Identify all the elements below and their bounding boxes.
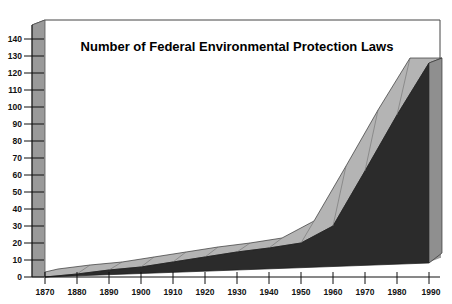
x-tick-1930: 1930 [228, 287, 247, 297]
area-right-cap [429, 58, 442, 263]
y-tick-40: 40 [13, 204, 23, 214]
x-tick-1890: 1890 [100, 287, 119, 297]
x-tick-1980: 1980 [388, 287, 407, 297]
y-tick-50: 50 [13, 187, 23, 197]
x-tick-1910: 1910 [164, 287, 183, 297]
y-tick-10: 10 [13, 255, 23, 265]
x-tick-1970: 1970 [356, 287, 375, 297]
y-tick-140: 140 [8, 34, 22, 44]
y-tick-70: 70 [13, 153, 23, 163]
x-tick-1870: 1870 [36, 287, 55, 297]
y-tick-80: 80 [13, 136, 23, 146]
x-tick-1960: 1960 [324, 287, 343, 297]
x-tick-1900: 1900 [132, 287, 151, 297]
x-tick-1880: 1880 [68, 287, 87, 297]
y-tick-110: 110 [8, 85, 22, 95]
y-tick-120: 120 [8, 68, 22, 78]
y-tick-130: 130 [8, 51, 22, 61]
chart-container: 0 10 20 30 40 50 60 70 80 90 100 110 [0, 0, 452, 304]
y-tick-0: 0 [17, 272, 22, 282]
chart-title: Number of Federal Environmental Protecti… [81, 39, 394, 54]
x-tick-1950: 1950 [292, 287, 311, 297]
y-tick-30: 30 [13, 221, 23, 231]
x-tick-1940: 1940 [260, 287, 279, 297]
y-tick-100: 100 [8, 102, 22, 112]
area-chart: 0 10 20 30 40 50 60 70 80 90 100 110 [0, 0, 452, 304]
y-tick-20: 20 [13, 238, 23, 248]
y-tick-60: 60 [13, 170, 23, 180]
left-depth-wall [32, 20, 45, 277]
y-tick-90: 90 [13, 119, 23, 129]
x-tick-1990: 1990 [422, 287, 441, 297]
x-tick-1920: 1920 [196, 287, 215, 297]
